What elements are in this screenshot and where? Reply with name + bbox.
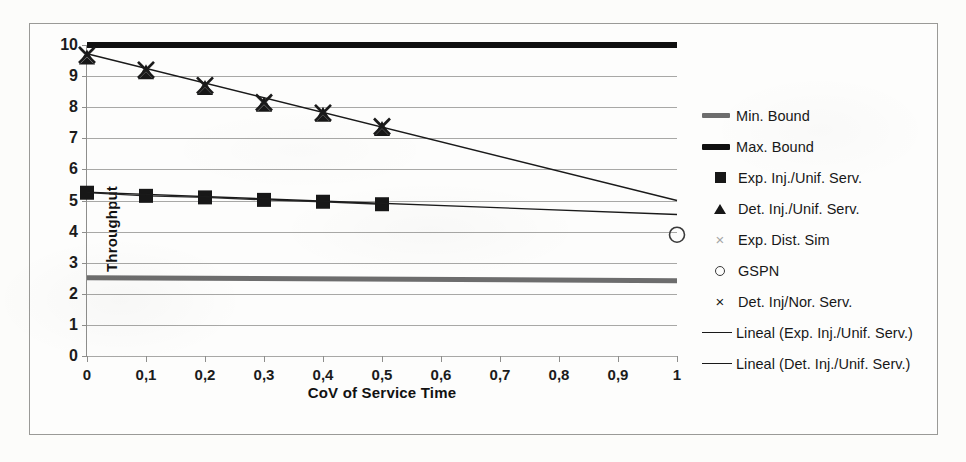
square-marker <box>257 193 271 207</box>
y-axis-tick-label: 1 <box>69 316 78 334</box>
chart-legend: Min. BoundMax. BoundExp. Inj./Unif. Serv… <box>702 100 932 379</box>
y-axis-tick-label: 9 <box>69 67 78 85</box>
x-axis-tick <box>323 356 324 362</box>
square-marker <box>139 189 153 203</box>
legend-item-label: Det. Inj/Nor. Serv. <box>738 294 852 310</box>
x-axis-tick-label: 0 <box>83 366 91 383</box>
series-exp-inj-unif-serv <box>80 186 389 212</box>
plot-area: 012345678910 00,10,20,30,40,50,60,70,80,… <box>87 45 677 356</box>
y-axis-tick-label: 7 <box>69 129 78 147</box>
x-mark-faded-icon: × <box>702 230 738 250</box>
x-axis-tick-label: 1 <box>673 366 681 383</box>
x-axis-tick-label: 0,6 <box>431 366 452 383</box>
y-axis-tick-label: 6 <box>69 160 78 178</box>
y-axis-tick-label: 10 <box>60 36 78 54</box>
thin-line-icon <box>702 354 736 374</box>
y-axis-tick-label: 2 <box>69 285 78 303</box>
series-layer <box>87 45 677 356</box>
x-axis-tick <box>382 356 383 362</box>
series-det-inj-unif-serv <box>79 49 390 136</box>
trend-line <box>87 54 677 201</box>
series-min-bound <box>87 278 677 281</box>
x-axis-tick <box>441 356 442 362</box>
legend-item-label: Max. Bound <box>736 139 814 155</box>
filled-square-icon <box>702 168 738 188</box>
x-axis-tick <box>87 356 88 362</box>
y-axis-tick-label: 5 <box>69 192 78 210</box>
x-axis-tick-label: 0,7 <box>490 366 511 383</box>
series-exp-dist-sim <box>80 49 389 135</box>
y-axis-tick-label: 8 <box>69 98 78 116</box>
legend-item[interactable]: Exp. Inj./Unif. Serv. <box>702 162 932 193</box>
legend-item[interactable]: GSPN <box>702 255 932 286</box>
series-lineal-det-inj-unif-serv <box>87 54 677 201</box>
y-axis-tick-label: 4 <box>69 223 78 241</box>
x-axis-tick <box>264 356 265 362</box>
legend-item[interactable]: Lineal (Det. Inj./Unif. Serv.) <box>702 348 932 379</box>
x-axis-tick-label: 0,3 <box>254 366 275 383</box>
x-axis-tick <box>559 356 560 362</box>
filled-triangle-icon <box>702 199 738 219</box>
legend-item[interactable]: Det. Inj./Unif. Serv. <box>702 193 932 224</box>
legend-item[interactable]: Lineal (Exp. Inj./Unif. Serv.) <box>702 317 932 348</box>
x-axis-tick-label: 0,4 <box>313 366 334 383</box>
x-axis-tick-label: 0,9 <box>608 366 629 383</box>
chart-page: Throughput 012345678910 00,10,20,30,40,5… <box>0 0 966 462</box>
square-marker <box>375 197 389 211</box>
circle-marker <box>670 227 685 242</box>
legend-item-label: Det. Inj./Unif. Serv. <box>738 201 860 217</box>
legend-item[interactable]: Max. Bound <box>702 131 932 162</box>
x-axis-tick <box>618 356 619 362</box>
legend-item-label: Lineal (Exp. Inj./Unif. Serv.) <box>736 325 913 341</box>
legend-item[interactable]: ×Exp. Dist. Sim <box>702 224 932 255</box>
x-axis-tick-label: 0,5 <box>372 366 393 383</box>
legend-item-label: GSPN <box>738 263 779 279</box>
series-gspn <box>670 227 685 242</box>
legend-item[interactable]: Min. Bound <box>702 100 932 131</box>
legend-item-label: Exp. Inj./Unif. Serv. <box>738 170 862 186</box>
legend-item-label: Exp. Dist. Sim <box>738 232 830 248</box>
x-mark-icon: × <box>702 292 738 312</box>
chart-frame: Throughput 012345678910 00,10,20,30,40,5… <box>29 23 938 435</box>
min-bound-line <box>87 278 677 281</box>
legend-item[interactable]: ×Det. Inj/Nor. Serv. <box>702 286 932 317</box>
legend-item-label: Min. Bound <box>736 108 810 124</box>
legend-item-label: Lineal (Det. Inj./Unif. Serv.) <box>736 356 911 372</box>
x-axis-tick-label: 0,1 <box>136 366 157 383</box>
x-axis-tick <box>205 356 206 362</box>
y-axis-tick-label: 0 <box>69 347 78 365</box>
thin-line-icon <box>702 323 736 343</box>
open-circle-icon <box>702 261 738 281</box>
thick-gray-line-icon <box>702 106 736 126</box>
x-axis-tick-label: 0,8 <box>549 366 570 383</box>
x-axis-tick <box>500 356 501 362</box>
x-axis-tick <box>146 356 147 362</box>
x-axis-title: CoV of Service Time <box>87 384 677 401</box>
x-axis-tick-label: 0,2 <box>195 366 216 383</box>
y-axis-tick-label: 3 <box>69 254 78 272</box>
x-axis-tick <box>677 356 678 362</box>
thick-black-line-icon <box>702 137 736 157</box>
